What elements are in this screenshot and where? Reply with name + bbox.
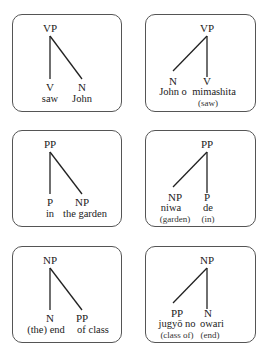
right-word: owari <box>200 318 224 329</box>
left-word: in <box>46 208 54 219</box>
left-category: V <box>46 81 54 93</box>
left-word: John o <box>159 86 187 97</box>
left-category: N <box>46 312 54 324</box>
left-gloss: (garden) <box>160 214 190 224</box>
root-label: VP <box>200 22 214 34</box>
right-word: of class <box>77 324 109 335</box>
left-gloss: (class of) <box>160 330 193 340</box>
tree-english-np: NP N (the) end PP of class <box>12 246 122 343</box>
tree-japanese-np: NP PP jugyō no (class of) N owari (end) <box>145 246 256 343</box>
right-word: the garden <box>63 208 107 219</box>
right-category: NP <box>75 196 89 208</box>
root-label: PP <box>201 138 213 150</box>
root-label: NP <box>43 254 57 266</box>
right-word: mimashita <box>192 86 236 97</box>
tree-english-vp: VP V saw N John <box>12 14 122 112</box>
tree-english-pp: PP P in NP the garden <box>12 130 122 227</box>
tree-branches <box>13 15 123 113</box>
right-gloss: (saw) <box>198 98 218 108</box>
left-word: saw <box>42 93 58 104</box>
right-gloss: (end) <box>201 330 220 340</box>
left-category: P <box>47 196 53 208</box>
right-word: John <box>72 93 92 104</box>
right-gloss: (in) <box>202 214 215 224</box>
root-label: NP <box>200 254 214 266</box>
right-category: N <box>78 81 86 93</box>
root-label: PP <box>44 138 56 150</box>
right-word: de <box>203 202 213 213</box>
root-label: VP <box>43 22 57 34</box>
left-word: (the) end <box>27 324 65 335</box>
right-category: PP <box>76 312 88 324</box>
tree-japanese-pp: PP NP niwa (garden) P de (in) <box>145 130 256 227</box>
tree-japanese-vp: VP N John o V mimashita (saw) <box>145 14 256 112</box>
left-word: niwa <box>161 202 181 213</box>
left-word: jugyō no <box>158 318 195 329</box>
